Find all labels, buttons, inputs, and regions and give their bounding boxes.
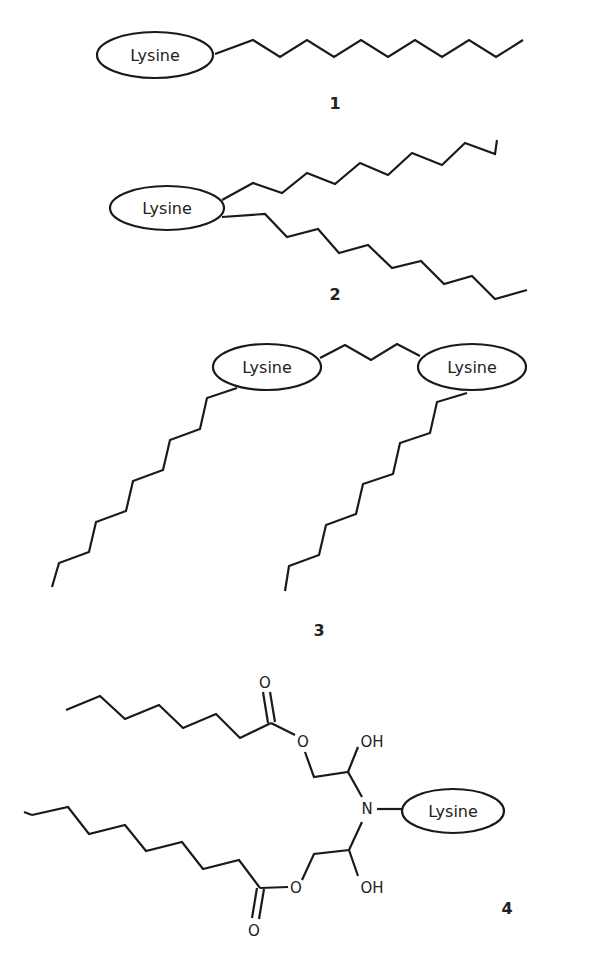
structure-number-2: 2 [329, 285, 340, 304]
structure-number-3: 3 [313, 621, 324, 640]
spacer-chain [320, 344, 420, 360]
carbonyl-bond [263, 692, 268, 723]
carbonyl-bond [252, 888, 257, 918]
carbonyl-bond [270, 692, 275, 722]
lysine-label: Lysine [142, 199, 192, 218]
lysine-label: Lysine [428, 802, 478, 821]
acyl-chain-bottom [32, 807, 260, 888]
structure-2: Lysine 2 [110, 140, 527, 304]
alkyl-chain [215, 40, 523, 57]
alkyl-chain-lower [222, 214, 527, 299]
lysine-label: Lysine [130, 46, 180, 65]
atom-o: O [248, 922, 260, 940]
oh-bond [348, 747, 358, 772]
carbonyl-bond [259, 889, 264, 919]
structure-4: O O OH N Lysine OH O O 4 [24, 674, 513, 940]
linker-bottom [302, 822, 362, 880]
acyl-chain-top [66, 696, 271, 738]
ester-bond [271, 723, 295, 735]
structure-3: Lysine Lysine 3 [52, 344, 526, 640]
alkyl-chain-left [52, 388, 237, 587]
lysine-label: Lysine [242, 358, 292, 377]
structure-1: Lysine 1 [97, 32, 523, 113]
ester-bond [260, 887, 288, 888]
atom-o: O [297, 733, 309, 751]
atom-oh: OH [360, 879, 383, 897]
atom-o: O [259, 674, 271, 692]
atom-oh: OH [360, 733, 383, 751]
lysine-surfactant-figure: Lysine 1 Lysine 2 Lysine Lysine 3 O O OH [0, 0, 600, 963]
chain-end [24, 812, 32, 815]
atom-o: O [290, 879, 302, 897]
structure-number-1: 1 [329, 94, 340, 113]
lysine-label: Lysine [447, 358, 497, 377]
oh-bond [349, 850, 358, 876]
alkyl-chain-right [285, 393, 467, 591]
atom-n: N [361, 800, 372, 818]
structure-number-4: 4 [501, 899, 512, 918]
alkyl-chain-upper [222, 140, 497, 200]
